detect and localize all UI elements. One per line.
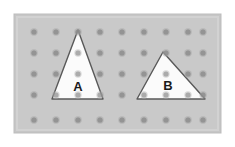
peg-dot: [185, 29, 190, 34]
geoboard-canvas: A B: [0, 0, 235, 147]
peg-dot: [200, 117, 205, 122]
peg-dot: [163, 71, 168, 76]
peg-dot: [31, 50, 36, 55]
peg-dot: [141, 50, 146, 55]
peg-dot: [200, 92, 205, 97]
peg-dot: [75, 29, 80, 34]
peg-dot: [75, 50, 80, 55]
peg-dot: [141, 29, 146, 34]
peg-dot: [119, 50, 124, 55]
peg-dot: [141, 117, 146, 122]
peg-dot: [119, 117, 124, 122]
peg-dot: [200, 50, 205, 55]
geoboard-figure: A B: [0, 0, 235, 147]
peg-dot: [185, 50, 190, 55]
peg-dot: [185, 117, 190, 122]
peg-dot: [119, 71, 124, 76]
peg-dot: [53, 71, 58, 76]
peg-dot: [97, 50, 102, 55]
peg-dot: [163, 117, 168, 122]
peg-dot: [119, 29, 124, 34]
peg-dot: [53, 92, 58, 97]
peg-dot: [53, 50, 58, 55]
peg-dot: [163, 50, 168, 55]
peg-dot: [119, 92, 124, 97]
peg-dot: [31, 92, 36, 97]
peg-dot: [141, 71, 146, 76]
peg-dot: [31, 71, 36, 76]
peg-dot: [97, 71, 102, 76]
peg-dot: [53, 29, 58, 34]
peg-dot: [97, 29, 102, 34]
peg-dot: [200, 29, 205, 34]
peg-dot: [141, 92, 146, 97]
peg-dot: [75, 117, 80, 122]
peg-dot: [185, 92, 190, 97]
peg-dot: [163, 29, 168, 34]
peg-dot: [31, 117, 36, 122]
peg-dot: [200, 71, 205, 76]
peg-dot: [97, 117, 102, 122]
triangle-b-label: B: [163, 78, 172, 93]
peg-dot: [97, 92, 102, 97]
peg-dot: [185, 71, 190, 76]
peg-dot: [53, 117, 58, 122]
peg-dot: [75, 71, 80, 76]
peg-dot: [31, 29, 36, 34]
triangle-a-label: A: [73, 79, 83, 94]
